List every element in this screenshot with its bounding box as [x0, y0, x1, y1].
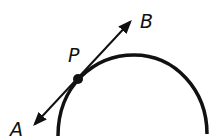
label-a: A	[8, 118, 23, 140]
point-p-dot	[73, 74, 83, 84]
diagram-canvas: B P A	[0, 0, 222, 140]
tangent-diagram: B P A	[0, 0, 222, 140]
label-p: P	[68, 44, 80, 66]
circle-arc	[58, 55, 207, 136]
label-b: B	[140, 10, 153, 32]
tangent-line-ab	[35, 22, 130, 124]
